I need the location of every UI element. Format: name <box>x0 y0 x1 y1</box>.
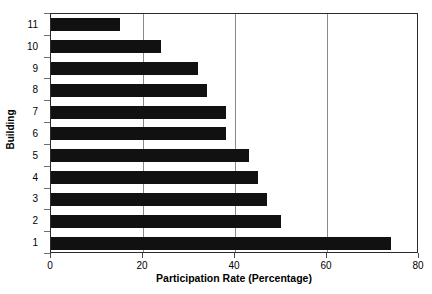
bar-row <box>51 14 120 36</box>
bar-row <box>51 210 281 232</box>
x-tick-mark <box>234 253 235 258</box>
bar-chart-figure: Building 1110987654321 020406080 Partici… <box>0 0 432 294</box>
bar-building-1 <box>51 237 391 250</box>
x-tick-label-40: 40 <box>228 260 239 271</box>
bar-row <box>51 79 207 101</box>
y-tick-label-3: 3 <box>32 193 38 204</box>
bar-row <box>51 58 198 80</box>
bar-building-6 <box>51 127 226 140</box>
x-tick-label-80: 80 <box>412 260 423 271</box>
plot-area <box>50 13 418 253</box>
x-tick-label-20: 20 <box>136 260 147 271</box>
bar-building-11 <box>51 18 120 31</box>
bar-building-2 <box>51 215 281 228</box>
y-tick-label-7: 7 <box>32 106 38 117</box>
bar-row <box>51 36 161 58</box>
bar-building-4 <box>51 171 258 184</box>
bar-row <box>51 232 391 254</box>
bar-building-3 <box>51 193 267 206</box>
y-tick-label-8: 8 <box>32 84 38 95</box>
x-tick-label-60: 60 <box>320 260 331 271</box>
y-axis-tick-group: 1110987654321 <box>0 13 50 253</box>
y-tick-label-2: 2 <box>32 215 38 226</box>
bar-row <box>51 189 267 211</box>
bar-building-10 <box>51 40 161 53</box>
bar-row <box>51 101 226 123</box>
x-tick-mark <box>50 253 51 258</box>
y-tick-label-9: 9 <box>32 62 38 73</box>
x-axis-title: Participation Rate (Percentage) <box>50 272 418 284</box>
bar-building-7 <box>51 106 226 119</box>
y-tick-label-1: 1 <box>32 237 38 248</box>
x-tick-mark <box>326 253 327 258</box>
y-tick-label-6: 6 <box>32 128 38 139</box>
x-tick-mark <box>142 253 143 258</box>
y-tick-label-5: 5 <box>32 149 38 160</box>
bar-row <box>51 167 258 189</box>
bar-row <box>51 123 226 145</box>
bar-building-8 <box>51 84 207 97</box>
y-tick-label-11: 11 <box>28 18 38 29</box>
x-tick-label-0: 0 <box>47 260 53 271</box>
bars-layer <box>51 14 417 252</box>
bar-building-9 <box>51 62 198 75</box>
x-tick-mark <box>418 253 419 258</box>
bar-building-5 <box>51 149 249 162</box>
bar-row <box>51 145 249 167</box>
y-tick-label-4: 4 <box>32 171 38 182</box>
y-tick-label-10: 10 <box>27 40 38 51</box>
